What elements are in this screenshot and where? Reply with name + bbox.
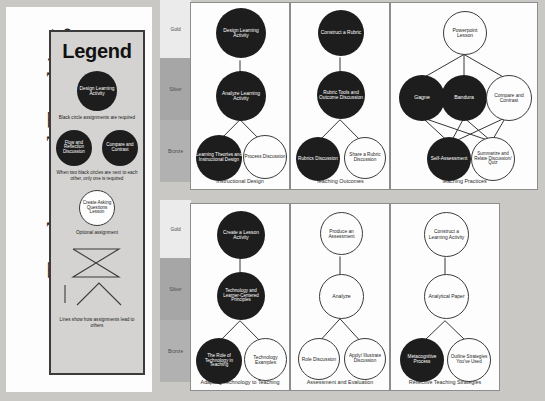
node-construct-a-learning-activity[interactable]: Construct a Learning Activity	[424, 212, 469, 257]
node-label: Rubric Tools and Outcome Discussion	[317, 90, 365, 100]
node-analyze[interactable]: Analyze	[319, 274, 364, 319]
node-summarize-and-relate-discussion-quiz[interactable]: Summarize and Relate Discussion/ Quiz	[471, 137, 515, 181]
node-label: Analyze	[332, 294, 350, 299]
medal-scale-bottom: Gold Silver Bronze	[160, 200, 191, 382]
legend-optional-label: Create Asking Questions Lesson	[80, 201, 114, 215]
medal-band-gold: Gold	[160, 0, 191, 58]
legend-lines-caption: Lines show how assignments lead to other…	[51, 317, 143, 330]
node-gagne[interactable]: Gagne	[399, 75, 445, 121]
legend-pair-right-label: Compare and Contrast	[102, 143, 138, 152]
legend-required-caption: Black circle assignments are required	[51, 115, 143, 122]
node-technology-and-learner-centered-principles[interactable]: Technology and Learner-Centered Principl…	[217, 272, 265, 320]
panel-assessment-and-evaluation[interactable]: Produce an Assessment Analyze Role Discu…	[290, 203, 390, 391]
medal-band-silver-2: Silver	[160, 258, 191, 320]
panel-instructional-design[interactable]: Design Learning Activity Analyze Learnin…	[190, 2, 290, 190]
legend-pair-caption: When two black circles are next to each …	[51, 170, 143, 183]
legend-required-label: Design Learning Activity	[77, 86, 117, 96]
node-label: Gagne	[414, 95, 430, 100]
legend-panel: Legend Design Learning Activity Black ci…	[49, 30, 145, 375]
legend-pair-left-label: Flow and Reflection Discussion	[56, 141, 92, 155]
node-process-discussion[interactable]: Process Discussion	[243, 135, 287, 179]
node-label: Bandura	[454, 95, 474, 100]
panel-adapting-technology-to-teaching[interactable]: Create a Lesson Activity Technology and …	[190, 203, 290, 391]
title-legend-card: Teachers and Teaching Legend Design Lear…	[6, 7, 152, 392]
node-outline-strategies-youve-used[interactable]: Outline Strategies You've Used	[447, 338, 491, 382]
node-analyze-learning-activity[interactable]: Analyze Learning Activity	[216, 71, 266, 121]
node-label: Design Learning Activity	[216, 28, 266, 38]
node-share-a-rubric-discussion[interactable]: Share a Rubric Discussion	[344, 137, 386, 179]
medal-band-silver: Silver	[160, 58, 191, 120]
medal-band-bronze-2: Bronze	[160, 320, 191, 382]
node-rubrics-discussion[interactable]: Rubrics Discussion	[296, 137, 340, 181]
medal-scale-top: Gold Silver Bronze	[160, 0, 191, 182]
node-label: Self-Assessment	[431, 156, 468, 161]
panel-reflective-teaching-strategies[interactable]: Construct a Learning Activity Analytical…	[390, 203, 500, 391]
legend-title: Legend	[51, 40, 143, 63]
node-role-discussion[interactable]: Role Discussion	[298, 338, 340, 380]
node-label: The Role of Technology in Teaching	[196, 354, 242, 368]
node-construct-a-rubric[interactable]: Construct a Rubric	[318, 10, 364, 56]
legend-pair-left-node: Flow and Reflection Discussion	[56, 130, 92, 166]
node-design-learning-activity[interactable]: Design Learning Activity	[216, 8, 266, 58]
node-powerpoint-lesson[interactable]: Powerpoint Lesson	[443, 11, 487, 55]
node-label: Construct a Learning Activity	[425, 229, 468, 239]
node-metacognitive-process[interactable]: Metacognitive Process	[400, 338, 444, 382]
node-produce-an-assessment[interactable]: Produce an Assessment	[320, 212, 363, 255]
node-label: Learning Theories and Instructional Desi…	[196, 153, 242, 163]
node-label: Process Discussion	[245, 155, 286, 160]
node-self-assessment[interactable]: Self-Assessment	[427, 137, 471, 181]
node-the-role-of-technology-in-teaching[interactable]: The Role of Technology in Teaching	[196, 338, 242, 384]
medal-band-bronze: Bronze	[160, 120, 191, 182]
node-label: Technology Examples	[245, 355, 286, 365]
node-label: Construct a Rubric	[321, 30, 362, 35]
node-label: Analytical Paper	[428, 294, 464, 299]
node-label: Metacognitive Process	[400, 355, 444, 365]
node-label: Compare and Contrast	[487, 93, 531, 103]
node-label: Rubrics Discussion	[298, 157, 338, 162]
panel-teaching-practices[interactable]: Powerpoint Lesson Gagne Bandura Compare …	[390, 2, 538, 190]
node-label: Powerpoint Lesson	[444, 28, 486, 38]
panel-teaching-outcomes[interactable]: Construct a Rubric Rubric Tools and Outc…	[290, 2, 390, 190]
node-label: Apply/ Illustrate Discussion	[345, 354, 385, 364]
legend-optional-caption: Optional assignment	[51, 230, 143, 237]
legend-pair-row: Flow and Reflection Discussion Compare a…	[51, 130, 143, 166]
node-rubric-tools-and-outcome-discussion[interactable]: Rubric Tools and Outcome Discussion	[317, 71, 365, 119]
legend-optional-node: Create Asking Questions Lesson	[79, 190, 115, 226]
node-label: Outline Strategies You've Used	[448, 355, 490, 365]
node-label: Create a Lesson Activity	[217, 230, 265, 240]
node-label: Analyze Learning Activity	[216, 91, 266, 101]
node-create-a-lesson-activity[interactable]: Create a Lesson Activity	[217, 211, 265, 259]
node-apply-illustrate-discussion[interactable]: Apply/ Illustrate Discussion	[344, 338, 386, 380]
node-compare-and-contrast[interactable]: Compare and Contrast	[486, 75, 532, 121]
legend-required-node: Design Learning Activity	[77, 71, 117, 111]
node-label: Technology and Learner-Centered Principl…	[217, 289, 265, 303]
node-learning-theories-and-instructional-design[interactable]: Learning Theories and Instructional Desi…	[196, 135, 242, 181]
medal-band-gold-2: Gold	[160, 200, 191, 258]
node-technology-examples[interactable]: Technology Examples	[244, 338, 287, 381]
node-label: Share a Rubric Discussion	[345, 153, 385, 163]
node-label: Role Discussion	[302, 357, 336, 362]
legend-lines-diagram	[51, 243, 143, 313]
legend-pair-right-node: Compare and Contrast	[102, 130, 138, 166]
node-bandura[interactable]: Bandura	[441, 75, 487, 121]
node-analytical-paper[interactable]: Analytical Paper	[424, 274, 469, 319]
node-label: Summarize and Relate Discussion/ Quiz	[472, 152, 514, 166]
node-label: Produce an Assessment	[321, 229, 362, 239]
